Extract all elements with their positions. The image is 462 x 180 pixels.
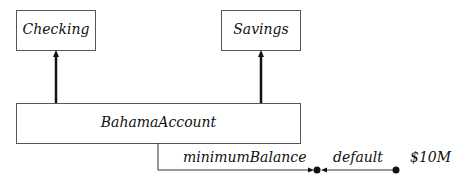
checking-label: Checking — [16, 21, 96, 37]
default-value-label: $10M — [410, 149, 451, 165]
diagram-canvas: Checking Savings BahamaAccount minimumBa… — [0, 0, 462, 180]
arrowhead-icon — [321, 168, 327, 173]
default-label: default — [333, 149, 383, 165]
arrowhead-icon — [308, 168, 314, 173]
savings-label: Savings — [221, 21, 301, 37]
bahama-account-label: BahamaAccount — [16, 114, 301, 130]
attribute-name-label: minimumBalance — [183, 149, 306, 165]
attribute-endpoint-dot — [314, 167, 321, 174]
arrowhead-icon — [53, 50, 59, 57]
arrowhead-icon — [258, 50, 264, 57]
default-value-dot — [393, 167, 400, 174]
